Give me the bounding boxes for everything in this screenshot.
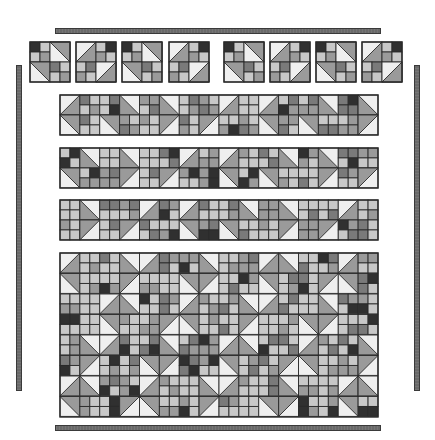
center-panel bbox=[60, 253, 378, 417]
quilt-block bbox=[362, 42, 402, 82]
top-row-blocks bbox=[30, 42, 402, 82]
strip-1 bbox=[60, 95, 378, 135]
quilt-block bbox=[316, 42, 356, 82]
quilt-block bbox=[270, 42, 310, 82]
quilt-diagram bbox=[0, 0, 435, 440]
quilt-block bbox=[30, 42, 70, 82]
quilt-block bbox=[224, 42, 264, 82]
strip-2 bbox=[60, 148, 378, 188]
strip-3 bbox=[60, 200, 378, 240]
border-strips bbox=[60, 95, 378, 240]
quilt-block bbox=[76, 42, 116, 82]
quilt-block bbox=[122, 42, 162, 82]
quilt-block bbox=[169, 42, 209, 82]
